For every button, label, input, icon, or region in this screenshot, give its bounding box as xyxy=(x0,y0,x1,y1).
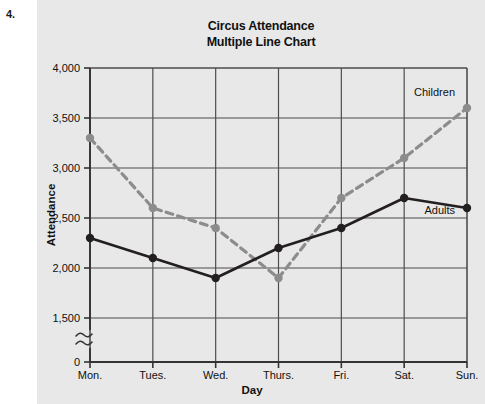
series-label-adults: Adults xyxy=(424,204,455,216)
worksheet-page: 4. Circus Attendance Multiple Line Chart… xyxy=(0,0,485,404)
data-point-children-6[interactable] xyxy=(463,104,471,112)
problem-number: 4. xyxy=(6,8,15,20)
y-tick-label-4000: 4,000 xyxy=(52,62,80,74)
x-axis-title: Day xyxy=(241,384,263,396)
x-tick-label-tues: Tues. xyxy=(139,369,166,381)
x-tick-label-sun: Sun. xyxy=(456,369,479,381)
x-tick-labels: Mon.Tues.Wed.Thurs.Fri.Sat.Sun. xyxy=(78,369,479,381)
page-margin: 4. xyxy=(0,0,37,404)
x-tick-label-sat: Sat. xyxy=(394,369,414,381)
data-point-children-1[interactable] xyxy=(149,204,157,212)
data-point-children-3[interactable] xyxy=(274,274,282,282)
x-tick-label-thurs: Thurs. xyxy=(263,369,294,381)
y-tick-label-0: 0 xyxy=(74,356,80,368)
y-tick-label-3000: 3,000 xyxy=(52,162,80,174)
line-chart-svg: 01,5002,0002,5003,0003,5004,000 Mon.Tues… xyxy=(37,0,485,404)
y-axis-title: Attendance xyxy=(45,184,57,247)
x-tick-label-wed: Wed. xyxy=(203,369,228,381)
series-label-children: Children xyxy=(414,86,455,98)
y-tick-label-3500: 3,500 xyxy=(52,112,80,124)
x-tick-label-mon: Mon. xyxy=(78,369,102,381)
x-tick-label-fri: Fri. xyxy=(333,369,349,381)
data-point-adults-6[interactable] xyxy=(463,204,471,212)
data-point-adults-5[interactable] xyxy=(400,194,408,202)
y-tick-label-2000: 2,000 xyxy=(52,262,80,274)
data-point-adults-4[interactable] xyxy=(337,224,345,232)
data-point-adults-1[interactable] xyxy=(149,254,157,262)
data-point-children-4[interactable] xyxy=(337,194,345,202)
data-point-adults-0[interactable] xyxy=(86,234,94,242)
y-tick-label-1500: 1,500 xyxy=(52,312,80,324)
data-point-adults-3[interactable] xyxy=(274,244,282,252)
chart-panel: Circus Attendance Multiple Line Chart 01… xyxy=(37,0,485,404)
gridlines xyxy=(90,68,467,362)
data-point-adults-2[interactable] xyxy=(211,274,219,282)
data-point-children-2[interactable] xyxy=(211,224,219,232)
series-annotations: ChildrenAdults xyxy=(414,86,455,216)
data-point-children-5[interactable] xyxy=(400,154,408,162)
data-point-children-0[interactable] xyxy=(86,134,94,142)
